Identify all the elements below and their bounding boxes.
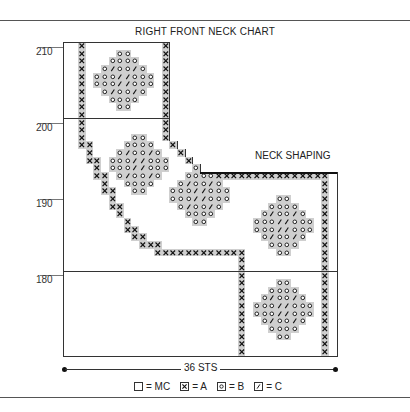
bottom-rule [0,397,410,398]
neck-shaping-edge [200,172,337,174]
legend-item-a: = A [180,381,207,392]
legend-symbol-mc-icon [134,382,143,391]
y-label: 210 [36,46,53,57]
legend-symbol-c-icon [254,382,263,391]
legend-text: = A [192,381,207,392]
y-label: 200 [36,122,53,133]
chart-title: RIGHT FRONT NECK CHART [0,26,410,37]
top-rule [0,20,410,21]
legend-symbol-a-icon [180,382,189,391]
chart-cell-mc [329,348,338,357]
y-label: 190 [36,198,53,209]
stitch-count-label: 36 STS [181,362,220,373]
legend-text: = C [266,381,282,392]
legend-item-mc: = MC [134,381,170,392]
legend: = MC= A= B= C [134,381,288,392]
neck-shaping-label: NECK SHAPING [255,150,331,161]
width-end-dot [333,367,338,372]
y-label: 180 [36,274,53,285]
legend-symbol-b-icon [217,382,226,391]
legend-item-c: = C [254,381,282,392]
legend-text: = MC [146,381,170,392]
legend-text: = B [229,381,244,392]
legend-item-b: = B [217,381,244,392]
